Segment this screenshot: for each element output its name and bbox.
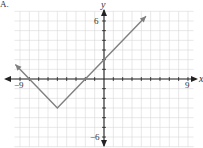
y-axis-label: y (100, 0, 106, 10)
x-axis-label: x (198, 73, 203, 84)
data-line (15, 16, 146, 108)
x-min-tick-label: −9 (14, 80, 24, 90)
y-max-tick-label: 6 (94, 16, 99, 26)
axes (4, 9, 198, 147)
x-max-tick-label: 9 (185, 80, 190, 90)
corner-label: A. (0, 0, 9, 9)
absolute-value-graph: A. −9 9 6 −6 y x (0, 0, 203, 148)
y-min-tick-label: −6 (90, 132, 100, 142)
